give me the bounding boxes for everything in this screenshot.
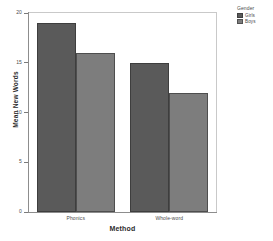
x-axis bbox=[28, 212, 217, 213]
legend: Gender GirlsBoys bbox=[237, 5, 273, 25]
bar bbox=[130, 63, 169, 212]
y-axis-tick-label: 5 bbox=[19, 157, 22, 166]
y-axis-tick-label: 0 bbox=[19, 207, 22, 216]
y-axis bbox=[28, 12, 29, 213]
bar bbox=[169, 93, 208, 212]
bars-layer bbox=[29, 13, 216, 212]
legend-item: Boys bbox=[237, 19, 273, 24]
y-axis-tick-mark bbox=[24, 112, 28, 113]
legend-swatch bbox=[237, 19, 243, 24]
bar-chart: 05101520 Mean New Words PhonicsWhole-wor… bbox=[0, 0, 273, 241]
legend-item: Girls bbox=[237, 13, 273, 18]
y-axis-tick-mark bbox=[24, 13, 28, 14]
y-axis-tick-label: 20 bbox=[16, 8, 22, 17]
y-axis-title: Mean New Words bbox=[12, 45, 19, 155]
y-axis-tick-mark bbox=[24, 162, 28, 163]
y-axis-tick-mark bbox=[24, 62, 28, 63]
legend-label: Girls bbox=[245, 13, 255, 18]
bar bbox=[37, 23, 76, 212]
legend-title: Gender bbox=[237, 5, 273, 11]
x-axis-title: Method bbox=[28, 225, 217, 232]
x-axis-category-label: Phonics bbox=[46, 215, 106, 221]
legend-items: GirlsBoys bbox=[237, 13, 273, 24]
x-axis-category-label: Whole-word bbox=[139, 215, 199, 221]
legend-label: Boys bbox=[245, 19, 256, 24]
bar bbox=[76, 53, 115, 212]
legend-swatch bbox=[237, 13, 243, 18]
